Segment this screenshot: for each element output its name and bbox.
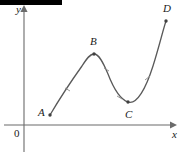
point-label-d: D xyxy=(163,3,171,14)
curve-group xyxy=(50,21,166,115)
function-curve xyxy=(50,21,166,115)
data-points-group xyxy=(48,19,167,116)
y-axis-arrowhead xyxy=(20,5,27,12)
plot-canvas xyxy=(0,0,183,160)
data-point-B xyxy=(92,52,95,55)
x-axis-label: x xyxy=(172,129,177,140)
axes-group xyxy=(4,5,177,152)
point-label-c: C xyxy=(125,109,132,120)
data-point-D xyxy=(164,19,167,22)
math-figure-cubic-curve: y x 0 A B C D xyxy=(0,0,183,160)
point-label-b: B xyxy=(90,36,97,47)
origin-label: 0 xyxy=(14,128,20,139)
point-label-a: A xyxy=(38,107,45,118)
y-axis-label: y xyxy=(16,4,21,15)
data-point-C xyxy=(126,100,129,103)
data-point-A xyxy=(48,113,51,116)
